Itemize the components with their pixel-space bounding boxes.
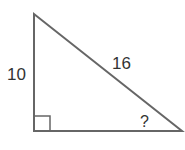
hypotenuse-label: 16 (112, 54, 131, 73)
angle-label: ? (140, 113, 149, 130)
triangle-diagram: 10 16 ? (0, 0, 185, 150)
right-triangle (34, 14, 182, 131)
vertical-leg-label: 10 (7, 65, 26, 84)
right-angle-marker (34, 116, 50, 131)
